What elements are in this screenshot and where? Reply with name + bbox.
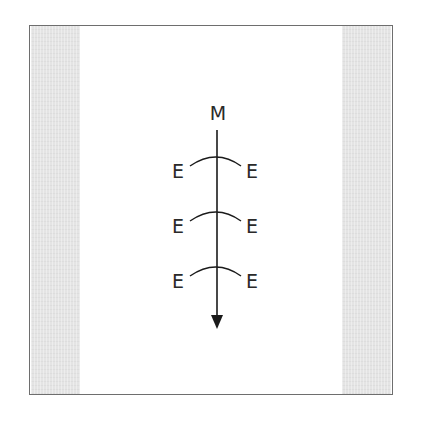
arrow-down-icon [211,315,223,329]
rung-right-label: E [246,160,258,182]
rung-right-label: E [246,215,258,237]
rung-arc [190,267,241,276]
rung-left-label: E [172,270,184,292]
rung-2: E E [172,212,258,237]
rung-left-label: E [172,215,184,237]
rung-arc [190,157,241,166]
rung-3: E E [172,267,258,292]
top-label-m: M [210,102,226,124]
rung-left-label: E [172,160,184,182]
arrow-diagram: M E E E E E E [0,0,424,430]
rung-right-label: E [246,270,258,292]
rung-arc [190,212,241,221]
rung-1: E E [172,157,258,182]
